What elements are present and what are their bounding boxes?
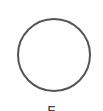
option-label: E xyxy=(0,103,103,111)
radio-option[interactable]: E xyxy=(0,0,103,111)
radio-circle-icon[interactable] xyxy=(17,18,91,92)
